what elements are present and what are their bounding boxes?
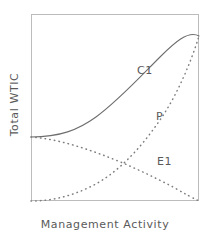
series-label-p: P [156, 110, 163, 123]
chart-figure: Total WTIC Management Activity C1 P E1 [0, 0, 210, 243]
y-axis-label: Total WTIC [8, 55, 21, 155]
chart-canvas [0, 0, 210, 243]
series-label-c1: C1 [137, 64, 153, 77]
x-axis-label: Management Activity [0, 218, 210, 231]
series-label-e1: E1 [157, 155, 172, 168]
plot-frame [32, 15, 199, 201]
